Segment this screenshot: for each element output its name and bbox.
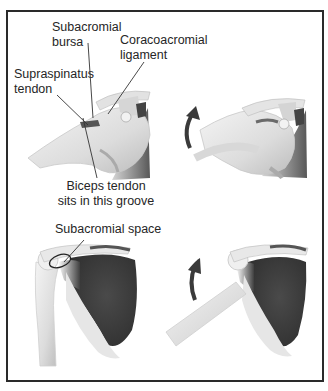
label-subacromial-space: Subacromial space — [55, 222, 161, 237]
label-supraspinatus-line2: tendon — [14, 82, 52, 97]
label-coracoacromial-line1: Coracoacromial — [120, 33, 208, 48]
label-coracoacromial-line2: ligament — [120, 48, 167, 63]
label-biceps-line1: Biceps tendon — [50, 179, 162, 194]
panel-bottom-right — [166, 245, 308, 357]
label-supraspinatus-line1: Supraspinatus — [14, 67, 94, 82]
panel-top-right — [195, 99, 307, 178]
label-biceps-line2: sits in this groove — [50, 194, 162, 209]
panel-top-left — [28, 91, 150, 180]
elevation-arrow-icon — [188, 258, 201, 300]
label-subacromial-bursa-line1: Subacromial — [52, 20, 121, 35]
label-subacromial-bursa-line2: bursa — [52, 35, 83, 50]
rotation-arrow-icon — [186, 106, 200, 148]
panel-bottom-left — [35, 245, 137, 366]
